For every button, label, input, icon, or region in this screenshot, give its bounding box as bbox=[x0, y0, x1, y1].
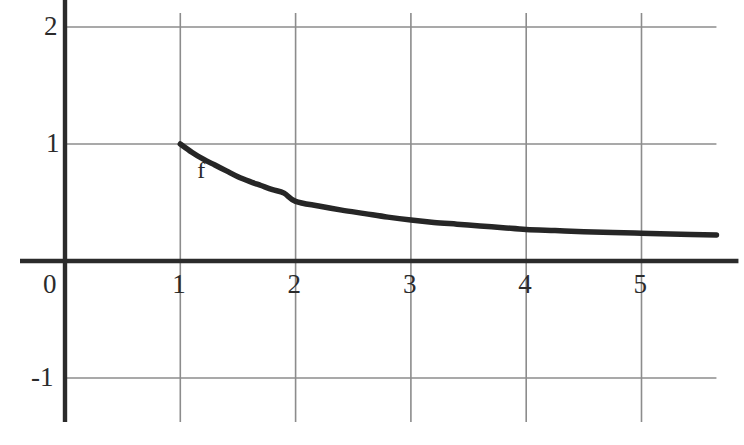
x-axis-tick-label-0: 0 bbox=[43, 271, 57, 298]
x-axis-tick-label-1: 1 bbox=[172, 271, 186, 298]
y-axis-tick-label-minus-1: -1 bbox=[31, 364, 54, 391]
x-axis-tick-label-3: 3 bbox=[403, 271, 417, 298]
y-axis-tick-label-1: 1 bbox=[46, 130, 60, 157]
plot-canvas bbox=[0, 0, 744, 445]
x-axis-tick-label-4: 4 bbox=[518, 271, 532, 298]
x-axis-tick-label-5: 5 bbox=[634, 271, 648, 298]
curve-label-f: f bbox=[197, 158, 205, 182]
function-plot-figure: 2 1 -1 0 1 2 3 4 5 f bbox=[0, 0, 744, 445]
axis-lines bbox=[20, 0, 738, 422]
x-axis-tick-label-2: 2 bbox=[288, 271, 302, 298]
function-curve bbox=[180, 144, 716, 235]
y-axis-tick-label-2: 2 bbox=[44, 13, 58, 40]
